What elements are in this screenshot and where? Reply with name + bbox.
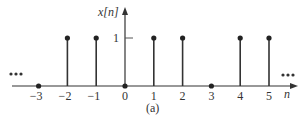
x-axis-label: n — [284, 87, 290, 101]
stem-dot — [65, 35, 70, 40]
ellipsis-right-icon — [281, 73, 294, 76]
stem-dot — [94, 35, 99, 40]
x-tick-label: −2 — [59, 89, 72, 103]
ellipsis-left-icon — [9, 72, 22, 75]
y-axis-arrow-icon — [122, 7, 128, 15]
x-tick-label: 2 — [180, 89, 186, 103]
x-tick-label: −1 — [87, 89, 100, 103]
x-tick-label: 3 — [208, 89, 214, 103]
stem-dot — [151, 35, 156, 40]
stem-plot: −3−2−1012345 x[n] 1 n (a) — [0, 0, 301, 132]
y-axis-label: x[n] — [97, 5, 119, 19]
x-tick-label: 5 — [266, 89, 272, 103]
stem-plot-figure: −3−2−1012345 x[n] 1 n (a) — [0, 0, 301, 132]
stems — [36, 35, 272, 88]
x-tick-label: −3 — [30, 89, 43, 103]
stem-dot — [209, 83, 214, 88]
y-tick-label: 1 — [113, 31, 119, 45]
x-tick-label: 0 — [122, 89, 128, 103]
stem-dot — [266, 35, 271, 40]
figure-caption: (a) — [146, 101, 159, 115]
stem-dot — [122, 83, 127, 88]
stem-dot — [36, 83, 41, 88]
n-axis-arrow-icon — [290, 83, 298, 89]
stem-dot — [238, 35, 243, 40]
x-tick-label: 4 — [237, 89, 243, 103]
stem-dot — [180, 35, 185, 40]
